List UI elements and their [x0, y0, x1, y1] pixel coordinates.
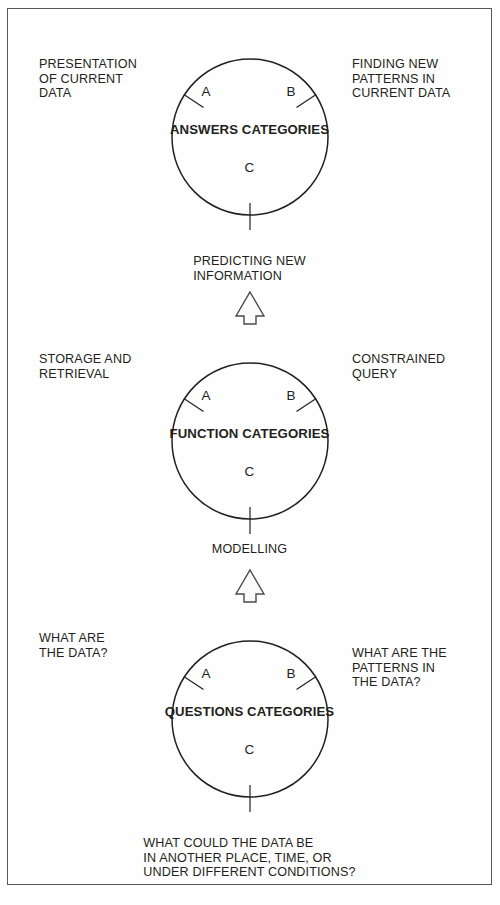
function-label-bottom: MODELLING: [212, 542, 288, 557]
questions-node-letter-b: B: [287, 667, 296, 681]
answers-label-right: FINDING NEW PATTERNS IN CURRENT DATA: [352, 57, 450, 101]
questions-label-right: WHAT ARE THE PATTERNS IN THE DATA?: [352, 646, 447, 690]
answers-label-bottom: PREDICTING NEW INFORMATION: [193, 254, 306, 284]
function-circle-group: A B C FUNCTION CATEGORIES: [150, 341, 350, 541]
function-node-letter-b: B: [287, 389, 296, 403]
questions-circle-group: A B C QUESTIONS CATEGORIES: [150, 619, 350, 819]
function-node-letter-a: A: [202, 389, 211, 403]
answers-label-bottom-wrap: PREDICTING NEW INFORMATION: [8, 239, 491, 283]
answers-circle-group: A B C ANSWERS CATEGORIES: [150, 37, 350, 237]
function-node-letter-c: C: [245, 465, 255, 479]
function-label-right: CONSTRAINED QUERY: [352, 352, 445, 381]
questions-tick-a: [184, 677, 203, 690]
function-label-bottom-wrap: MODELLING: [8, 527, 491, 557]
up-block-arrow-icon-function-to-answers: [233, 290, 267, 330]
answers-label-left: PRESENTATION OF CURRENT DATA: [39, 57, 137, 101]
answers-node-letter-c: C: [245, 161, 255, 175]
questions-label-bottom: WHAT COULD THE DATA BE IN ANOTHER PLACE,…: [143, 836, 355, 880]
questions-node-letter-c: C: [245, 743, 255, 757]
figure-frame: A B C ANSWERS CATEGORIES PRESENTATION OF…: [7, 8, 492, 885]
questions-node-letter-a: A: [202, 667, 211, 681]
up-block-arrow-icon-questions-to-function: [233, 568, 267, 608]
function-tick-a: [184, 399, 203, 412]
answers-tick-b: [296, 95, 315, 108]
function-label-left: STORAGE AND RETRIEVAL: [39, 352, 131, 381]
questions-label-left: WHAT ARE THE DATA?: [39, 631, 108, 660]
function-circle-title: FUNCTION CATEGORIES: [150, 427, 350, 442]
answers-circle-title: ANSWERS CATEGORIES: [150, 123, 350, 138]
questions-label-bottom-wrap: WHAT COULD THE DATA BE IN ANOTHER PLACE,…: [8, 821, 491, 880]
answers-node-letter-a: A: [202, 85, 211, 99]
questions-circle-title: QUESTIONS CATEGORIES: [150, 705, 350, 720]
answers-tick-a: [184, 95, 203, 108]
function-tick-b: [296, 399, 315, 412]
answers-node-letter-b: B: [287, 85, 296, 99]
questions-tick-b: [296, 677, 315, 690]
